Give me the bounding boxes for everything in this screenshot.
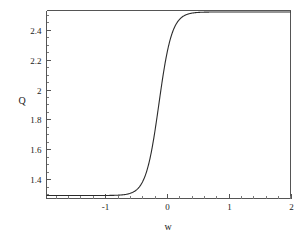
x-tick-label: 2 [289, 202, 294, 212]
y-tick-label: 2 [37, 86, 42, 96]
y-tick-label: 2.4 [30, 26, 42, 36]
y-tick-label: 2.2 [30, 56, 41, 66]
sigmoid-plot: -1012 1.41.61.822.22.4 Q w [0, 0, 306, 238]
y-tick-label: 1.8 [30, 115, 42, 125]
chart-container: -1012 1.41.61.822.22.4 Q w [0, 0, 306, 238]
plot-background [0, 0, 306, 238]
y-tick-label: 1.6 [30, 145, 42, 155]
y-tick-label: 1.4 [30, 175, 42, 185]
x-tick-label: 0 [165, 202, 170, 212]
x-tick-label: 1 [227, 202, 232, 212]
x-tick-label: -1 [102, 202, 110, 212]
y-axis-title: Q [18, 95, 26, 106]
x-axis-title: w [164, 221, 172, 232]
